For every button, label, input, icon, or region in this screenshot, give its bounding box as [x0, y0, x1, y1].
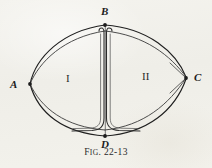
edge-inner-arc-D-C-upper [105, 78, 186, 130]
edge-channel-right-inner [110, 34, 138, 129]
vertex-node-A [28, 82, 32, 86]
edge-channel-left-inner [73, 34, 101, 129]
figure-caption: FIG. 22-13 [0, 148, 212, 158]
edge-channel-right-B-D [107, 28, 141, 131]
edge-channel-left-B-D [72, 28, 104, 131]
vertex-label-A: A [10, 79, 18, 90]
vertex-label-C: C [194, 72, 202, 83]
region-label-II: II [142, 71, 149, 82]
vertex-label-B: B [101, 6, 109, 17]
edge-outer-arc-A-D-lower [30, 84, 105, 136]
region-label-I: I [66, 73, 70, 84]
caption-suffix: . 22-13 [98, 147, 127, 157]
vertex-node-C [184, 76, 188, 80]
vertex-node-B [103, 23, 107, 27]
figure-container: A B C D I II FIG. 22-13 [0, 0, 212, 168]
